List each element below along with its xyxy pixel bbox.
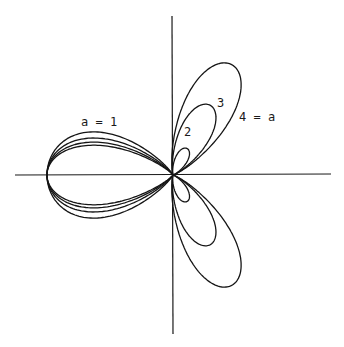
label-a3: 3 xyxy=(217,97,224,109)
polar-curve-diagram xyxy=(0,0,344,347)
label-a1: a = 1 xyxy=(81,116,117,128)
label-a4: 4 = a xyxy=(239,111,275,123)
label-a2: 2 xyxy=(184,126,191,138)
